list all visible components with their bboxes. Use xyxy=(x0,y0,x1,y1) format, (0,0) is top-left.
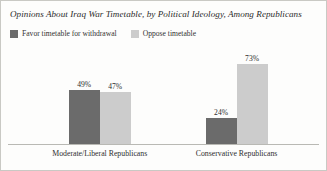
bar-rect-conservative-oppose xyxy=(237,64,268,144)
x-axis-line xyxy=(8,144,319,145)
legend-label-oppose: Oppose timetable xyxy=(143,29,196,38)
chart-title: Opinions About Iraq War Timetable, by Po… xyxy=(10,9,322,20)
plot-area: 49% 47% Moderate/Liberal Republicans 24%… xyxy=(8,45,319,144)
bar-value-conservative-favor: 24% xyxy=(214,108,228,117)
bar-conservative-favor: 24% xyxy=(206,45,237,144)
category-label-moderate-liberal: Moderate/Liberal Republicans xyxy=(52,149,147,159)
chart-legend: Favor timetable for withdrawal Oppose ti… xyxy=(10,29,196,38)
bar-moderate-favor: 49% xyxy=(69,45,100,144)
bar-moderate-oppose: 47% xyxy=(100,45,131,144)
bar-group-bars: 24% 73% xyxy=(203,45,271,144)
bar-rect-conservative-favor xyxy=(206,118,237,144)
legend-item-oppose: Oppose timetable xyxy=(131,29,196,38)
bar-group-conservative: 24% 73% Conservative Republicans xyxy=(203,45,271,144)
bar-value-conservative-oppose: 73% xyxy=(245,54,259,63)
legend-swatch-favor xyxy=(10,30,18,38)
bar-value-moderate-oppose: 47% xyxy=(108,82,122,91)
bar-conservative-oppose: 73% xyxy=(237,45,268,144)
bar-rect-moderate-oppose xyxy=(100,92,131,144)
legend-label-favor: Favor timetable for withdrawal xyxy=(22,29,117,38)
category-label-conservative: Conservative Republicans xyxy=(196,149,278,159)
chart-figure: Opinions About Iraq War Timetable, by Po… xyxy=(0,0,327,171)
legend-item-favor: Favor timetable for withdrawal xyxy=(10,29,117,38)
legend-swatch-oppose xyxy=(131,30,139,38)
bar-rect-moderate-favor xyxy=(69,90,100,144)
bar-group-moderate-liberal: 49% 47% Moderate/Liberal Republicans xyxy=(66,45,134,144)
bar-value-moderate-favor: 49% xyxy=(77,80,91,89)
bar-group-bars: 49% 47% xyxy=(66,45,134,144)
